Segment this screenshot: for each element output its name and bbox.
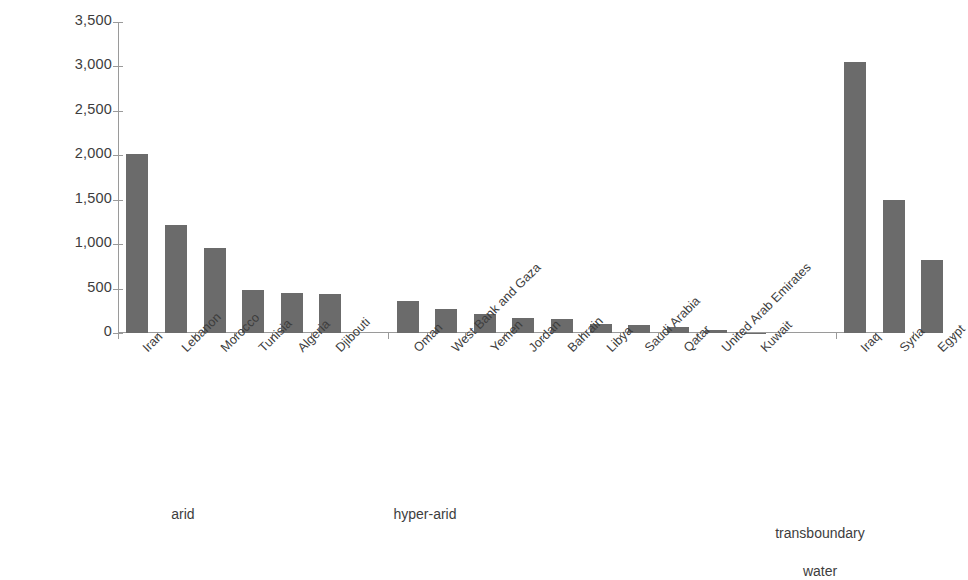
y-tick-label: 0 [12,323,112,339]
y-tick-500: 500 [0,289,132,290]
bar-syria [883,200,905,333]
group-label-transboundary-water: transboundary water [740,505,900,580]
group-label-hyper-arid: hyper-arid [355,505,495,524]
x-tick [836,333,837,339]
y-tick-label: 1,500 [12,190,112,206]
group-label-arid: arid [118,505,248,524]
y-tick-label: 1,000 [12,234,112,250]
y-tick-label: 2,500 [12,101,112,117]
bar-iraq [844,62,866,333]
y-tick-label: 2,000 [12,145,112,161]
y-tick-2000: 2,000 [0,155,132,156]
y-tick-3500: 3,500 [0,22,132,23]
y-tick-1000: 1,000 [0,244,132,245]
y-tick-3000: 3,000 [0,66,132,67]
bar-oman [397,301,419,333]
y-tick-0: 0 [0,333,132,334]
y-tick-label: 500 [12,279,112,295]
bar-egypt [921,260,943,333]
category-label-iran: Iran [140,330,165,355]
x-tick [388,333,389,339]
x-tick [118,333,119,339]
group-label-transboundary-line1: transboundary [740,524,900,543]
category-label-iraq: Iraq [858,330,883,355]
y-tick-label: 3,500 [12,12,112,28]
y-tick-2500: 2,500 [0,111,132,112]
group-label-transboundary-line2: water [740,562,900,580]
y-tick-label: 3,000 [12,56,112,72]
y-tick-1500: 1,500 [0,200,132,201]
bar-iran [126,154,148,333]
bar-lebanon [165,225,187,333]
